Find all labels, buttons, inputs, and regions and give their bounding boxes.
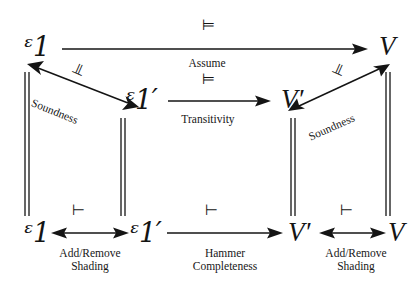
connector-inner-right-stroke xyxy=(291,118,295,216)
connector-inner-left-stroke xyxy=(121,118,125,216)
relation-symbol-top-assume: ⊨ xyxy=(202,18,215,33)
node-top-left: ᵋ1 xyxy=(22,33,50,60)
relation-symbol-bottom-left-shading: ⊢ xyxy=(72,203,85,218)
edge-bottom-hammer-stroke xyxy=(167,228,283,239)
commutative-diagram: ᵋ1 V ᵋ1′ V′ ᵋ1 ᵋ1′ V′ V ⊨ ⊨ ⊢ ⊢ ⊢ ⊨ ⊨ As… xyxy=(0,0,417,300)
node-mid-right: V′ xyxy=(281,86,303,113)
node-bottom-right-prime: V′ xyxy=(288,219,310,246)
edge-label-bottom-left-shading: Add/Remove Shading xyxy=(30,247,150,273)
node-bottom-right: V xyxy=(388,219,405,246)
node-bottom-left: ᵋ1 xyxy=(22,219,50,246)
connector-far-left-stroke xyxy=(25,72,29,216)
node-top-right: V xyxy=(379,33,396,60)
relation-symbol-transitivity: ⊨ xyxy=(202,72,215,87)
relation-symbol-bottom-right-shading: ⊢ xyxy=(340,203,353,218)
edge-top-assume-stroke xyxy=(62,44,368,55)
node-mid-left: ᵋ1′ xyxy=(124,86,157,113)
edge-label-hammer-completeness: Hammer Completeness xyxy=(165,247,285,273)
relation-symbol-hammer: ⊢ xyxy=(205,203,218,218)
node-bottom-left-prime: ᵋ1′ xyxy=(128,219,161,246)
edge-bottom-right-shading-stroke xyxy=(319,228,386,239)
edge-mid-transitivity-stroke xyxy=(168,96,271,107)
edge-label-transitivity: Transitivity xyxy=(168,113,248,126)
edge-label-assume: Assume xyxy=(172,57,242,70)
edge-label-bottom-right-shading: Add/Remove Shading xyxy=(296,247,416,273)
edge-bottom-left-shading-stroke xyxy=(51,228,129,239)
connector-far-right-stroke xyxy=(386,72,390,216)
